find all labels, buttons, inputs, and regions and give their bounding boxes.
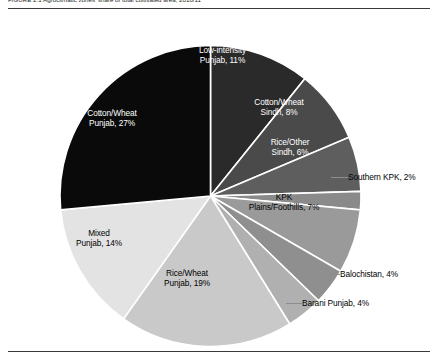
pie-label-cotton-wheat-punjab: Cotton/Wheat Punjab, 27% <box>64 108 160 128</box>
leader-line-barani-punjab <box>286 303 302 304</box>
pie-label-barani-punjab: Barani Punjab, 4% <box>302 298 369 308</box>
figure-container: FIGURE 2.1 Agroclimatic zones' share of … <box>0 0 438 364</box>
leader-line-balochistan <box>322 274 340 275</box>
bottom-divider <box>8 351 430 352</box>
pie-label-southern-kpk: Southern KPK, 2% <box>348 172 416 182</box>
leader-line-southern-kpk <box>331 177 348 178</box>
pie-label-balochistan: Balochistan, 4% <box>340 269 398 279</box>
pie-label-cotton-wheat-sindh: Cotton/Wheat Sindh, 8% <box>233 97 325 117</box>
pie-label-kpk-plains-foothills: KPK Plains/Foothills, 7% <box>232 192 336 212</box>
pie-label-rice-wheat-punjab: Rice/Wheat Punjab, 19% <box>139 268 235 288</box>
pie-label-rice-other-sindh: Rice/Other Sindh, 6% <box>250 137 330 157</box>
pie-label-low-intensity-punjab: Low-intensity Punjab, 11% <box>175 45 270 65</box>
pie-label-mixed-punjab: Mixed Punjab, 14% <box>52 228 146 248</box>
